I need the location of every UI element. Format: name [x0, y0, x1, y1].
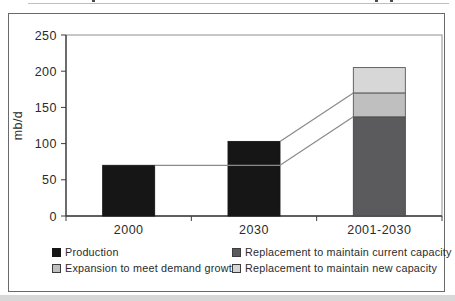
legend-item-replacement-current: Replacement to maintain current capacity	[232, 246, 452, 258]
legend-item-production: Production	[52, 246, 232, 258]
legend-swatch-expansion-demand	[52, 264, 61, 273]
x-category-label: 2030	[239, 223, 269, 237]
bar-segment	[228, 141, 280, 216]
legend-swatch-production	[52, 248, 61, 257]
legend-swatch-replacement-current	[232, 248, 241, 257]
y-tick-label: 250	[35, 29, 57, 43]
legend-item-expansion-demand: Expansion to meet demand growth	[52, 262, 232, 274]
y-axis-title: mb/d	[11, 111, 25, 140]
bar-segment	[353, 68, 405, 93]
bar-segment	[103, 165, 155, 216]
x-category-label: 2000	[114, 223, 144, 237]
legend-label: Replacement to maintain current capacity	[245, 246, 452, 258]
y-tick-label: 150	[35, 101, 57, 115]
legend-label: Production	[65, 246, 119, 258]
connector-line	[280, 93, 353, 142]
connector-line	[280, 117, 353, 166]
chart-legend: Production Replacement to maintain curre…	[52, 246, 444, 274]
legend-label: Replacement to maintain new capacity	[245, 262, 437, 274]
legend-label: Expansion to meet demand growth	[65, 262, 238, 274]
x-category-label: 2001-2030	[347, 223, 411, 237]
legend-swatch-replacement-new	[232, 264, 241, 273]
legend-item-replacement-new: Replacement to maintain new capacity	[232, 262, 452, 274]
y-tick-label: 0	[50, 210, 57, 224]
y-tick-label: 100	[35, 137, 57, 151]
bar-segment	[353, 93, 405, 117]
y-tick-label: 50	[42, 173, 57, 187]
figure-canvas: 050100150200250mb/d200020302001-2030 Pro…	[0, 0, 455, 301]
page-bottom-strip	[0, 295, 455, 301]
y-tick-label: 200	[35, 65, 57, 79]
bar-segment	[353, 117, 405, 216]
